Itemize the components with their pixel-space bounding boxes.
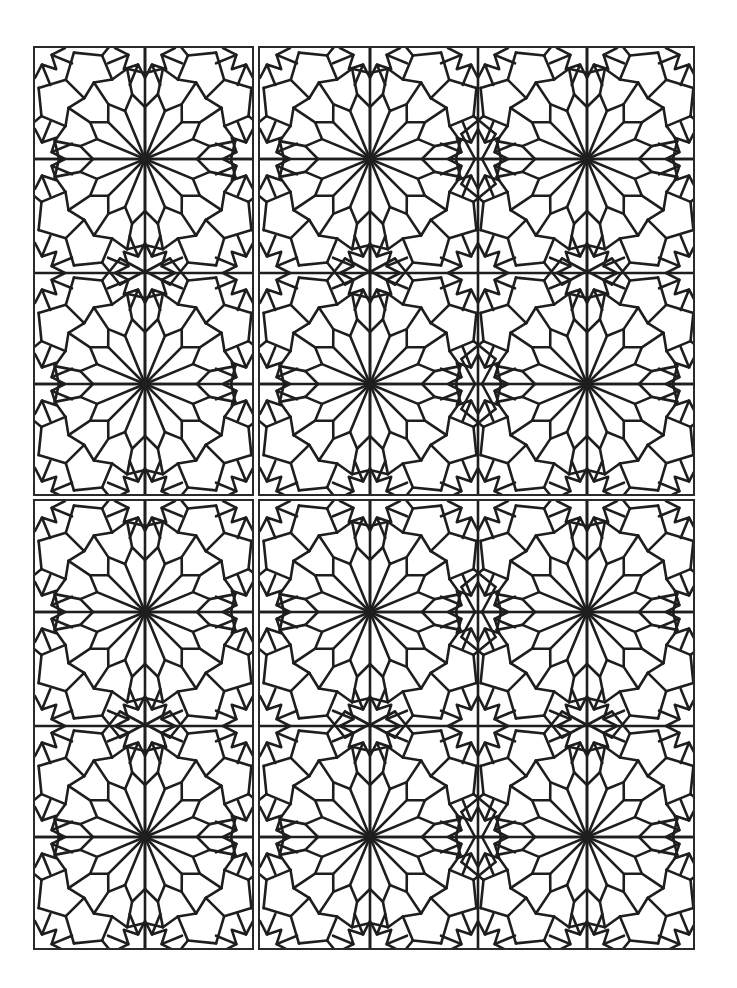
rosette-center-dot xyxy=(366,380,374,388)
panel-top-left xyxy=(33,46,254,496)
rosette-center-dot xyxy=(141,155,149,163)
rosette-center-dot xyxy=(583,608,591,616)
rosette-center-dot xyxy=(141,608,149,616)
rosette-pattern-graphic xyxy=(260,501,695,950)
panel-bottom-right xyxy=(258,499,695,950)
rosette-center-dot xyxy=(583,833,591,841)
rosette-center-dot xyxy=(366,833,374,841)
rosette-pattern-graphic xyxy=(35,48,254,496)
rosette-center-dot xyxy=(366,608,374,616)
rosette-center-dot xyxy=(141,380,149,388)
rosette-pattern-graphic xyxy=(260,48,695,496)
rosette-center-dot xyxy=(366,155,374,163)
rosette-center-dot xyxy=(141,833,149,841)
rosette-pattern-graphic xyxy=(35,501,254,950)
rosette-center-dot xyxy=(583,155,591,163)
panel-bottom-left xyxy=(33,499,254,950)
panel-top-right xyxy=(258,46,695,496)
rosette-center-dot xyxy=(583,380,591,388)
